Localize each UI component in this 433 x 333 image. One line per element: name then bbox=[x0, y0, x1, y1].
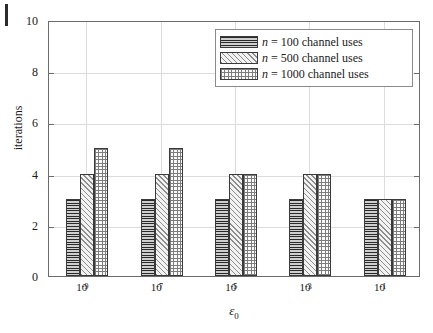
bar-s2-c2 bbox=[155, 174, 169, 276]
legend-swatch-horizontal-lines-icon bbox=[220, 36, 258, 48]
bar-s1-c1 bbox=[66, 199, 80, 276]
bar-s2-c5 bbox=[378, 199, 392, 276]
legend-swatch-diagonal-hatch-icon bbox=[220, 52, 258, 64]
bar-s2-c1 bbox=[80, 174, 94, 276]
y-tick-label: 8 bbox=[32, 66, 38, 78]
y-tick-label: 0 bbox=[32, 271, 38, 283]
bar-s1-c5 bbox=[364, 199, 378, 276]
y-tick-label: 2 bbox=[32, 220, 38, 232]
y-tick-label: 10 bbox=[26, 15, 38, 27]
bar-s3-c4 bbox=[317, 174, 331, 276]
bar-s1-c4 bbox=[289, 199, 303, 276]
plot-area: n = 100 channel uses n = 500 channel use… bbox=[48, 21, 420, 277]
x-tick-label-3: 10-5 bbox=[231, 281, 238, 296]
y-axis-title: iterations bbox=[11, 106, 26, 151]
legend-item-n1000: n = 1000 channel uses bbox=[220, 66, 407, 82]
bar-s2-c3 bbox=[229, 174, 243, 276]
legend-label-n1000: n = 1000 channel uses bbox=[262, 68, 369, 81]
bar-s1-c2 bbox=[141, 199, 155, 276]
bar-s3-c3 bbox=[243, 174, 257, 276]
x-tick-label-1: 10-9 bbox=[82, 281, 89, 296]
legend-swatch-cross-hatch-icon bbox=[220, 68, 258, 80]
x-tick-label-4: 10-3 bbox=[305, 281, 312, 296]
bar-s3-c5 bbox=[392, 199, 406, 276]
legend-rest: = 100 channel uses bbox=[268, 35, 363, 49]
legend-item-n100: n = 100 channel uses bbox=[220, 34, 407, 50]
legend-rest: = 500 channel uses bbox=[268, 51, 363, 65]
legend-label-n500: n = 500 channel uses bbox=[262, 52, 363, 65]
legend-rest: = 1000 channel uses bbox=[268, 67, 369, 81]
bar-s3-c2 bbox=[169, 148, 183, 276]
bar-s1-c3 bbox=[215, 199, 229, 276]
legend-item-n500: n = 500 channel uses bbox=[220, 50, 407, 66]
figure-container: 10 8 6 4 2 0 iterations bbox=[0, 0, 433, 333]
legend: n = 100 channel uses n = 500 channel use… bbox=[215, 29, 413, 87]
bar-s2-c4 bbox=[303, 174, 317, 276]
x-axis-title: ε0 bbox=[229, 303, 239, 321]
y-tick-label: 4 bbox=[32, 169, 38, 181]
legend-label-n100: n = 100 channel uses bbox=[262, 36, 363, 49]
bar-s3-c1 bbox=[94, 148, 108, 276]
x-tick-label-2: 10-7 bbox=[156, 281, 163, 296]
x-axis-tick-labels: 10-9 10-7 10-5 10-3 10-1 bbox=[48, 281, 420, 303]
y-tick-label: 6 bbox=[32, 117, 38, 129]
x-tick-label-5: 10-1 bbox=[379, 281, 386, 296]
